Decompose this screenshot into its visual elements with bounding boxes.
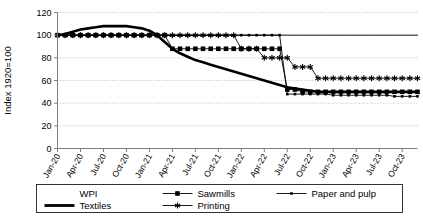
data-point-marker [339,90,344,95]
x-tick-label: Jul-22 [272,152,292,177]
data-point-marker [347,94,350,97]
data-point-marker [286,93,289,96]
data-point-marker [377,90,382,95]
data-point-marker [290,192,293,195]
data-point-marker [232,34,235,37]
series-line [58,35,418,92]
data-point-marker [324,93,327,96]
gridlines [58,13,418,126]
data-point-marker [317,93,320,96]
data-point-marker [408,90,413,95]
data-point-marker [363,94,366,97]
data-point-marker [186,34,189,37]
data-point-marker [378,94,381,97]
data-point-marker [170,46,175,51]
legend-label: Paper and pulp [312,188,376,199]
x-tick-labels: Jan-20Apr-20Jul-20Oct-20Jan-21Apr-21Jul-… [41,152,407,180]
data-point-marker [87,34,90,37]
data-point-marker [156,34,159,37]
legend-label: Textiles [80,200,112,211]
x-tick-label: Jul-23 [364,152,384,177]
data-point-marker [72,34,75,37]
x-tick-label: Oct-23 [385,152,407,179]
data-point-marker [201,46,206,51]
legend-label: Sawmills [198,188,236,199]
x-tick-label: Apr-20 [64,152,86,179]
data-point-marker [217,34,220,37]
chart-container: 020406080100120 Jan-20Apr-20Jul-20Oct-20… [0,0,423,219]
data-point-marker [278,34,281,37]
x-tick-label: Apr-21 [156,152,178,179]
data-point-marker [340,94,343,97]
data-point-marker [309,93,312,96]
data-point-marker [179,34,182,37]
data-point-marker [240,34,243,37]
y-axis-title-text: Index 1920=100 [2,46,13,114]
x-tick-label: Jul-20 [88,152,108,177]
y-tick-label: 60 [41,76,51,86]
data-point-marker [332,94,335,97]
data-point-marker [346,90,351,95]
data-point-marker [393,95,396,98]
data-point-marker [163,34,166,37]
data-point-marker [224,46,229,51]
data-point-marker [409,95,412,98]
data-point-marker [301,93,304,96]
data-point-marker [355,94,358,97]
data-point-marker [392,90,397,95]
data-point-marker [79,34,82,37]
x-tick-label: Oct-21 [202,152,224,179]
data-point-marker [64,34,67,37]
data-point-marker [271,34,274,37]
data-point-marker [193,46,198,51]
data-point-marker [94,34,97,37]
data-point-marker [148,34,151,37]
data-point-marker [102,34,105,37]
data-point-marker [331,90,336,95]
y-axis-title: Index 1920=100 [2,46,13,114]
series-paper-and-pulp [56,34,419,98]
data-point-marker [415,90,420,95]
wpi-index-line-chart: 020406080100120 Jan-20Apr-20Jul-20Oct-20… [0,0,423,219]
x-tick-label: Jan-22 [224,152,246,180]
data-point-marker [175,191,180,196]
data-point-marker [255,34,258,37]
data-point-marker [208,46,213,51]
data-point-marker [185,46,190,51]
series-line [58,35,418,96]
data-point-marker [231,46,236,51]
x-tick-label: Apr-23 [340,152,362,179]
y-tick-label: 100 [36,30,51,40]
data-point-marker [401,95,404,98]
data-point-marker [248,34,251,37]
x-tick-label: Jan-20 [41,152,63,180]
data-point-marker [385,90,390,95]
series-layer [55,26,420,98]
y-tick-labels: 020406080100120 [36,8,51,154]
x-tick-label: Oct-22 [294,152,316,179]
data-point-marker [354,90,359,95]
data-point-marker [140,34,143,37]
legend-label: Printing [198,200,230,211]
data-point-marker [262,46,267,51]
data-point-marker [416,95,419,98]
data-point-marker [125,34,128,37]
data-point-marker [117,34,120,37]
x-tick-label: Jan-21 [132,152,154,180]
data-point-marker [178,46,183,51]
data-point-marker [133,34,136,37]
data-point-marker [293,87,298,92]
chart-legend: WPISawmillsPaper and pulpTextilesPrintin… [37,185,403,213]
data-point-marker [362,90,367,95]
data-point-marker [202,34,205,37]
data-point-marker [110,34,113,37]
x-tick-label: Jul-21 [180,152,200,177]
data-point-marker [225,34,228,37]
y-tick-label: 0 [46,144,51,154]
data-point-marker [270,46,275,51]
y-tick-label: 20 [41,121,51,131]
data-point-marker [171,34,174,37]
data-point-marker [294,93,297,96]
data-point-marker [400,90,405,95]
x-tick-label: Jan-23 [316,152,338,180]
